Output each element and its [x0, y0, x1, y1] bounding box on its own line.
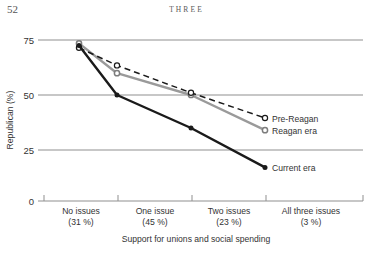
x-category-label-0-line1: No issues — [62, 206, 100, 216]
x-category-label-1-line1: One issue — [136, 206, 175, 216]
y-axis-title: Republican (%) — [5, 90, 15, 149]
legend-label-reagan-era: Reagan era — [272, 126, 317, 136]
series-current-era — [77, 43, 268, 170]
x-axis — [44, 195, 363, 201]
x-category-label-1-line2: (45 %) — [142, 217, 167, 227]
x-category-label-3-line1: All three issues — [282, 206, 340, 216]
series-pre-reagan-point-3 — [262, 115, 267, 120]
series-reagan-era-point-1 — [114, 71, 119, 76]
x-category-label-2-line2: (23 %) — [216, 217, 241, 227]
series-current-era-point-2 — [189, 126, 194, 131]
series-current-era-point-0 — [77, 43, 82, 48]
x-axis-title: Support for unions and social spending — [122, 234, 271, 244]
line-chart: 75 50 25 0 Republican (%) No issues (31 … — [0, 20, 373, 261]
y-tick-label-50: 50 — [23, 90, 34, 101]
series-reagan-era-line — [79, 43, 265, 130]
book-page: 52 THREE 75 50 25 0 Republican (%) — [0, 0, 373, 261]
series-reagan-era-point-3 — [262, 128, 267, 133]
x-category-labels: No issues (31 %) One issue (45 %) Two is… — [62, 206, 340, 244]
series-pre-reagan — [76, 45, 267, 120]
x-category-label-0-line2: (31 %) — [68, 217, 93, 227]
y-tick-label-75: 75 — [23, 35, 34, 46]
legend-label-current-era: Current era — [272, 163, 316, 173]
series-current-era-point-3 — [263, 165, 268, 170]
figure-chart: 75 50 25 0 Republican (%) No issues (31 … — [0, 20, 373, 261]
x-category-label-3-line2: (3 %) — [301, 217, 322, 227]
y-tick-label-0: 0 — [29, 196, 34, 207]
series-current-era-point-1 — [115, 93, 120, 98]
chart-legend: Pre-Reagan Reagan era Current era — [272, 114, 319, 174]
legend-label-pre-reagan: Pre-Reagan — [272, 114, 319, 124]
x-category-label-2-line1: Two issues — [208, 206, 251, 216]
y-tick-label-25: 25 — [23, 145, 34, 156]
series-pre-reagan-point-2 — [188, 90, 193, 95]
y-axis: 75 50 25 0 Republican (%) — [5, 35, 44, 207]
series-pre-reagan-point-1 — [114, 63, 119, 68]
running-head: THREE — [0, 5, 373, 14]
